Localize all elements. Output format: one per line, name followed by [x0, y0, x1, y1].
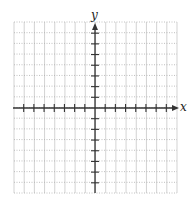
x-axis-label: x: [180, 101, 187, 113]
x-axis-arrow-icon: [172, 105, 179, 111]
axes: [13, 23, 179, 193]
y-axis-label: y: [91, 9, 98, 21]
coordinate-grid: [0, 0, 192, 209]
y-axis-arrow-icon: [92, 23, 98, 30]
